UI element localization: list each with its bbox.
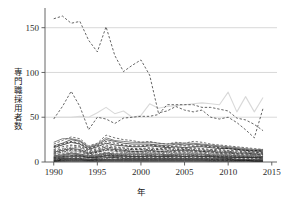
series-line-series-03-gray [54,92,263,117]
y-tick-label: 100 [26,68,40,78]
x-tick-label: 2010 [219,167,238,177]
series-layer [54,16,263,161]
chart-container: 専門職採用者数 19901995200020052010201505010015… [0,0,283,199]
x-tick-label: 1995 [88,167,107,177]
axis-lines [45,8,277,162]
gridlines [45,28,277,118]
x-tick-label: 2000 [132,167,151,177]
y-tick-label: 0 [35,157,40,167]
line-chart-svg: 199019952000200520102015050100150 [0,0,283,199]
y-tick-label: 50 [30,112,40,122]
series-line-series-02 [54,91,263,130]
y-tick-label: 150 [26,23,40,33]
x-tick-label: 2015 [263,167,282,177]
x-tick-label: 1990 [45,167,64,177]
x-axis-title: 年 [0,185,283,197]
x-tick-label: 2005 [176,167,195,177]
